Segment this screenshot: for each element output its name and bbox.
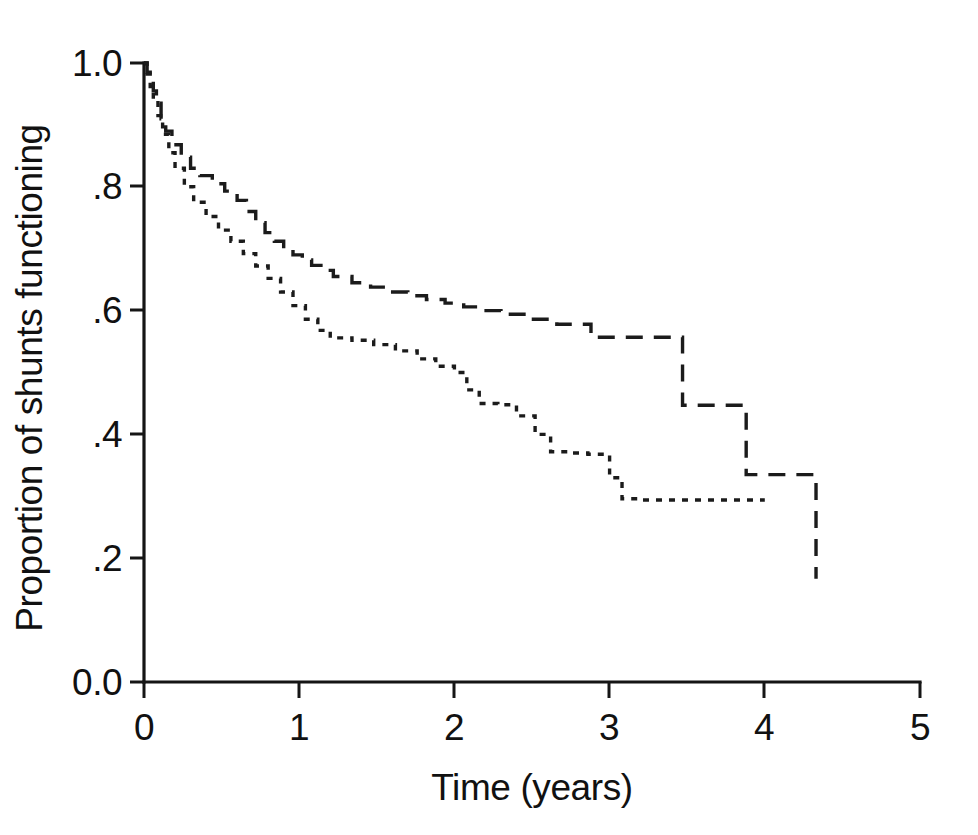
x-tick-marks [144, 682, 920, 698]
y-tick-label-04: .4 [92, 414, 122, 455]
y-tick-label-08: .8 [92, 166, 122, 207]
x-tick-label-0: 0 [134, 707, 154, 748]
y-axis-title: Proportion of shunts functioning [9, 124, 50, 632]
x-tick-label-2: 2 [444, 707, 464, 748]
x-tick-label-5: 5 [910, 707, 930, 748]
y-tick-marks [130, 63, 144, 682]
x-tick-label-1: 1 [289, 707, 309, 748]
x-axis-title: Time (years) [431, 767, 632, 808]
kaplan-meier-figure: 1.0 .8 .6 .4 .2 0.0 0 1 2 3 4 5 Time (ye… [0, 0, 978, 835]
survival-curve-upper [144, 63, 816, 579]
y-tick-label-02: .2 [92, 538, 122, 579]
survival-curve-lower [144, 63, 765, 500]
y-tick-label-00: 0.0 [72, 662, 122, 703]
y-tick-label-1: 1.0 [72, 43, 122, 84]
km-plot-svg: 1.0 .8 .6 .4 .2 0.0 0 1 2 3 4 5 Time (ye… [0, 0, 978, 835]
x-tick-label-4: 4 [754, 707, 774, 748]
y-tick-label-06: .6 [92, 290, 122, 331]
x-tick-label-3: 3 [599, 707, 619, 748]
